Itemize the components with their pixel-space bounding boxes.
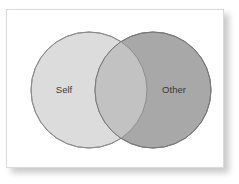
venn-diagram-svg: Self Other (7, 10, 223, 167)
venn-diagram-screenshot: Self Other (0, 0, 239, 184)
venn-label-self: Self (56, 84, 73, 95)
venn-stage: Self Other (7, 10, 223, 167)
diagram-panel: Self Other (6, 9, 224, 168)
venn-label-other: Other (162, 84, 186, 95)
